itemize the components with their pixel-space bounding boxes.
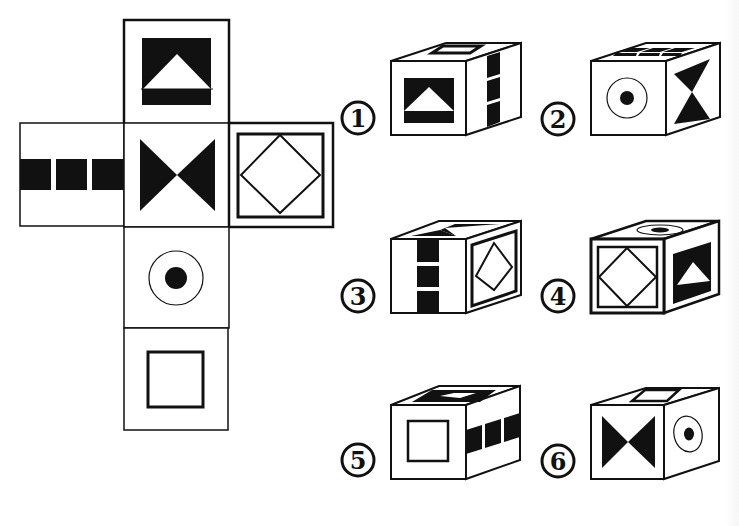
net-face-center[interactable] bbox=[124, 123, 229, 227]
net-face-top[interactable] bbox=[124, 20, 229, 124]
option-1-label: 1 bbox=[350, 104, 367, 133]
three-squares-icon bbox=[417, 240, 439, 313]
puzzle-canvas: 1 2 bbox=[0, 0, 739, 526]
net-face-left[interactable] bbox=[20, 123, 124, 226]
option-4-label: 4 bbox=[550, 282, 567, 311]
three-squares-icon bbox=[20, 159, 124, 190]
dot-icon bbox=[165, 267, 187, 289]
three-squares-icon bbox=[487, 52, 500, 127]
dot-icon bbox=[684, 428, 694, 441]
option-3-label: 3 bbox=[350, 282, 367, 311]
dot-icon bbox=[620, 91, 634, 105]
net-face-below1[interactable] bbox=[124, 227, 229, 328]
scan-edge-shade bbox=[725, 0, 739, 526]
option-6[interactable]: 6 bbox=[542, 388, 719, 479]
option-5[interactable]: 5 bbox=[342, 386, 520, 479]
option-6-label: 6 bbox=[550, 447, 567, 476]
cube-net bbox=[20, 20, 333, 430]
option-3[interactable]: 3 bbox=[342, 221, 521, 313]
option-2-label: 2 bbox=[550, 105, 567, 134]
option-5-label: 5 bbox=[350, 446, 367, 475]
option-1[interactable]: 1 bbox=[342, 43, 521, 135]
net-face-right[interactable] bbox=[229, 123, 333, 227]
net-face-below2[interactable] bbox=[124, 328, 228, 430]
option-4[interactable]: 4 bbox=[542, 221, 719, 313]
triangle-on-square-icon bbox=[141, 38, 213, 105]
option-2[interactable]: 2 bbox=[542, 43, 720, 135]
dot-icon bbox=[651, 228, 669, 233]
